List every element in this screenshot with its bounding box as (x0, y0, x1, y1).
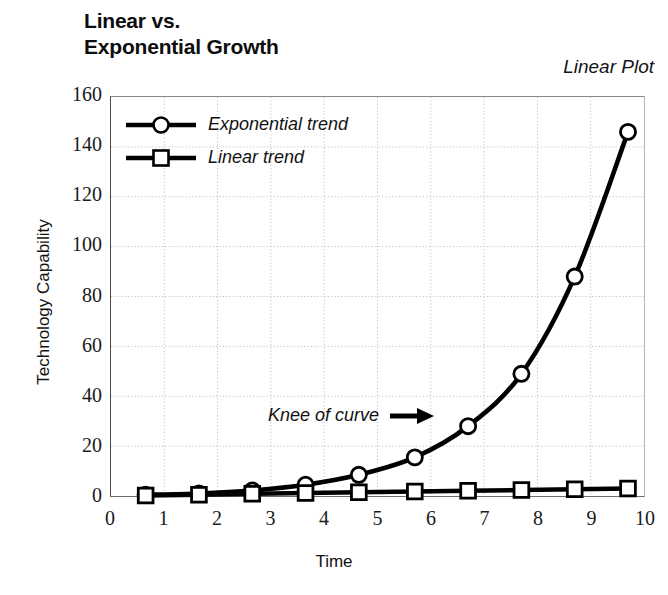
data-point-square[interactable] (351, 485, 366, 500)
data-point-square[interactable] (461, 483, 476, 498)
y-tick-label: 20 (40, 434, 102, 457)
series-exponential (138, 124, 636, 502)
chart-figure: Linear vs. Exponential Growth Linear Plo… (0, 0, 668, 595)
x-tick-label: 3 (251, 507, 291, 530)
y-tick-label: 80 (40, 284, 102, 307)
x-tick-label: 1 (144, 507, 184, 530)
plot-type-label: Linear Plot (563, 56, 654, 78)
data-point-circle[interactable] (514, 366, 529, 381)
x-axis-title: Time (0, 552, 668, 572)
data-point-circle[interactable] (407, 450, 422, 465)
y-tick-label: 60 (40, 334, 102, 357)
data-point-square[interactable] (192, 487, 207, 502)
x-tick-label: 4 (304, 507, 344, 530)
data-point-square[interactable] (567, 482, 582, 497)
data-point-square[interactable] (138, 488, 153, 503)
title-block: Linear vs. Exponential Growth (84, 8, 464, 60)
data-point-circle[interactable] (567, 269, 582, 284)
right-arrow-icon (389, 407, 435, 425)
legend-label-linear: Linear trend (208, 147, 304, 168)
y-tick-label: 120 (40, 183, 102, 206)
knee-annotation-label: Knee of curve (268, 405, 379, 426)
series-line (146, 132, 628, 495)
data-point-square[interactable] (514, 483, 529, 498)
data-point-circle[interactable] (620, 124, 635, 139)
data-point-square[interactable] (407, 484, 422, 499)
x-tick-label: 9 (572, 507, 612, 530)
x-tick-label: 8 (518, 507, 558, 530)
x-tick-label: 10 (625, 507, 665, 530)
y-tick-label: 140 (40, 133, 102, 156)
legend-marker-square-icon (124, 147, 198, 169)
legend-marker-circle-icon (124, 114, 198, 136)
x-tick-label: 2 (197, 507, 237, 530)
x-tick-label: 7 (465, 507, 505, 530)
x-tick-label: 0 (90, 507, 130, 530)
y-tick-label: 0 (40, 484, 102, 507)
x-tick-label: 6 (411, 507, 451, 530)
legend-item-linear[interactable]: Linear trend (124, 141, 348, 174)
x-tick-label: 5 (358, 507, 398, 530)
data-point-circle[interactable] (461, 419, 476, 434)
legend-label-exponential: Exponential trend (208, 114, 348, 135)
data-point-square[interactable] (245, 486, 260, 501)
page-title: Linear vs. Exponential Growth (84, 8, 464, 60)
y-tick-label: 160 (40, 83, 102, 106)
legend: Exponential trend Linear trend (124, 108, 348, 174)
data-point-square[interactable] (298, 486, 313, 501)
knee-annotation: Knee of curve (268, 405, 435, 426)
data-point-square[interactable] (621, 481, 636, 496)
y-tick-label: 40 (40, 384, 102, 407)
y-tick-label: 100 (40, 233, 102, 256)
legend-item-exponential[interactable]: Exponential trend (124, 108, 348, 141)
data-point-circle[interactable] (351, 467, 366, 482)
